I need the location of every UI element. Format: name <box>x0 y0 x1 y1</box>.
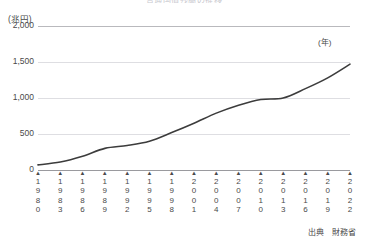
x-tick-label-1989: 1989 <box>96 177 114 214</box>
national-debt-line-chart: 普通国債残高の推移 (兆円) 05001,0001,5002,000 ▲1980… <box>0 0 368 243</box>
x-tick-1989: ▲1989 <box>96 170 114 214</box>
x-tick-2019: ▲2019 <box>319 170 337 214</box>
y-tick-label-2000: 2,000 <box>13 20 34 30</box>
x-tick-label-2010: 2010 <box>252 177 270 214</box>
x-tick-2007: ▲2007 <box>230 170 248 214</box>
chart-title: 普通国債残高の推移 <box>0 0 368 3</box>
x-tick-marker-icon: ▲ <box>252 170 270 177</box>
x-tick-marker-icon: ▲ <box>74 170 92 177</box>
x-tick-1992: ▲1992 <box>118 170 136 214</box>
x-tick-marker-icon: ▲ <box>140 170 158 177</box>
x-tick-1983: ▲1983 <box>51 170 69 214</box>
x-tick-label-2001: 2001 <box>185 177 203 214</box>
x-tick-label-1980: 1980 <box>29 177 47 214</box>
x-tick-label-1992: 1992 <box>118 177 136 214</box>
x-tick-marker-icon: ▲ <box>341 170 359 177</box>
x-tick-marker-icon: ▲ <box>207 170 225 177</box>
plot-area: 05001,0001,5002,000 <box>38 26 350 170</box>
x-tick-1995: ▲1995 <box>140 170 158 214</box>
x-tick-marker-icon: ▲ <box>319 170 337 177</box>
x-tick-1998: ▲1998 <box>163 170 181 214</box>
x-tick-2004: ▲2004 <box>207 170 225 214</box>
y-tick-label-1000: 1,000 <box>13 92 34 102</box>
x-tick-marker-icon: ▲ <box>296 170 314 177</box>
x-tick-marker-icon: ▲ <box>51 170 69 177</box>
x-tick-marker-icon: ▲ <box>29 170 47 177</box>
source-note: 出典 財務省 <box>308 226 356 237</box>
x-tick-marker-icon: ▲ <box>96 170 114 177</box>
debt-series-line <box>38 64 350 165</box>
x-tick-label-2016: 2016 <box>296 177 314 214</box>
x-axis: ▲1980▲1983▲1986▲1989▲1992▲1995▲1998▲2001… <box>38 170 350 226</box>
y-tick-label-500: 500 <box>20 128 34 138</box>
x-tick-label-2013: 2013 <box>274 177 292 214</box>
x-tick-label-1986: 1986 <box>74 177 92 214</box>
x-tick-label-2019: 2019 <box>319 177 337 214</box>
x-tick-1980: ▲1980 <box>29 170 47 214</box>
x-tick-2001: ▲2001 <box>185 170 203 214</box>
x-tick-label-2007: 2007 <box>230 177 248 214</box>
x-tick-marker-icon: ▲ <box>185 170 203 177</box>
x-tick-1986: ▲1986 <box>74 170 92 214</box>
x-axis-unit-label: (年) <box>318 36 331 47</box>
x-tick-marker-icon: ▲ <box>163 170 181 177</box>
x-tick-label-1998: 1998 <box>163 177 181 214</box>
x-tick-2016: ▲2016 <box>296 170 314 214</box>
y-tick-label-1500: 1,500 <box>13 56 34 66</box>
x-tick-label-2004: 2004 <box>207 177 225 214</box>
x-tick-2010: ▲2010 <box>252 170 270 214</box>
x-tick-marker-icon: ▲ <box>274 170 292 177</box>
x-tick-2013: ▲2013 <box>274 170 292 214</box>
x-tick-2022: ▲2022 <box>341 170 359 214</box>
series-line-svg <box>38 26 350 170</box>
x-tick-marker-icon: ▲ <box>230 170 248 177</box>
x-tick-label-2022: 2022 <box>341 177 359 214</box>
x-tick-label-1983: 1983 <box>51 177 69 214</box>
x-tick-label-1995: 1995 <box>140 177 158 214</box>
x-tick-marker-icon: ▲ <box>118 170 136 177</box>
